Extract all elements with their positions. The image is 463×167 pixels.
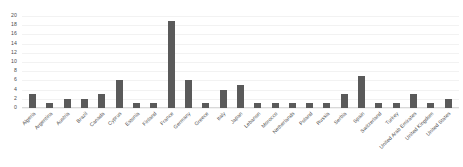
x-axis-tick-label: Italy bbox=[216, 111, 227, 122]
bar-slot bbox=[266, 16, 283, 108]
y-axis-tick-label: 8 bbox=[14, 69, 17, 74]
bar[interactable] bbox=[237, 85, 244, 108]
y-axis-tick-label: 14 bbox=[11, 41, 17, 46]
bar-slot bbox=[76, 16, 93, 108]
x-label-slot: Poland bbox=[301, 109, 318, 167]
bar-chart: 20181614121086420 AlgeriaArgentinaAustri… bbox=[0, 0, 463, 167]
bar-slot bbox=[336, 16, 353, 108]
x-label-slot: Russia bbox=[318, 109, 335, 167]
x-axis-tick-label: Spain bbox=[352, 111, 365, 124]
x-label-slot: Greece bbox=[197, 109, 214, 167]
bar[interactable] bbox=[81, 99, 88, 108]
y-axis-tick-label: 10 bbox=[11, 59, 17, 64]
x-label-slot: Argentina bbox=[41, 109, 58, 167]
x-label-slot: United Kingdom bbox=[422, 109, 439, 167]
bar[interactable] bbox=[254, 103, 261, 108]
bar[interactable] bbox=[168, 21, 175, 108]
bar-slot bbox=[197, 16, 214, 108]
x-label-slot: Lebanon bbox=[249, 109, 266, 167]
bar[interactable] bbox=[64, 99, 71, 108]
y-axis-tick-label: 20 bbox=[11, 13, 17, 18]
bar[interactable] bbox=[150, 103, 157, 108]
bar-slot bbox=[422, 16, 439, 108]
bar-slot bbox=[163, 16, 180, 108]
y-axis-tick-label: 4 bbox=[14, 87, 17, 92]
y-axis-tick-label: 16 bbox=[11, 32, 17, 37]
x-label-slot: Algeria bbox=[24, 109, 41, 167]
y-axis-tick-label: 2 bbox=[14, 96, 17, 101]
bar-slot bbox=[41, 16, 58, 108]
x-axis-labels: AlgeriaArgentinaAustriaBrazilCanadaCypru… bbox=[22, 109, 459, 167]
bar[interactable] bbox=[46, 103, 53, 108]
x-label-slot: Cyprus bbox=[111, 109, 128, 167]
x-label-slot: Germany bbox=[180, 109, 197, 167]
bar-slot bbox=[405, 16, 422, 108]
bar-slot bbox=[318, 16, 335, 108]
bar[interactable] bbox=[98, 94, 105, 108]
y-axis: 20181614121086420 bbox=[0, 16, 20, 108]
bar-slot bbox=[59, 16, 76, 108]
bar-slot bbox=[24, 16, 41, 108]
bar[interactable] bbox=[306, 103, 313, 108]
x-label-slot: Italy bbox=[214, 109, 231, 167]
y-axis-tick-label: 12 bbox=[11, 50, 17, 55]
bar[interactable] bbox=[133, 103, 140, 108]
bar-slot bbox=[214, 16, 231, 108]
bar-slot bbox=[145, 16, 162, 108]
x-label-slot: Netherlands bbox=[284, 109, 301, 167]
bar[interactable] bbox=[323, 103, 330, 108]
bar[interactable] bbox=[358, 76, 365, 108]
bar[interactable] bbox=[341, 94, 348, 108]
x-axis-tick-label: Russia bbox=[316, 111, 331, 126]
bar[interactable] bbox=[410, 94, 417, 108]
y-axis-tick-label: 18 bbox=[11, 23, 17, 28]
x-axis-tick-label: Austria bbox=[56, 111, 71, 126]
bar[interactable] bbox=[116, 80, 123, 108]
bar[interactable] bbox=[29, 94, 36, 108]
x-label-slot: Brazil bbox=[76, 109, 93, 167]
x-label-slot: United States bbox=[440, 109, 457, 167]
x-label-slot: Estonia bbox=[128, 109, 145, 167]
bar-slot bbox=[388, 16, 405, 108]
x-label-slot: Serbia bbox=[336, 109, 353, 167]
bar[interactable] bbox=[289, 103, 296, 108]
bar[interactable] bbox=[220, 90, 227, 108]
x-label-slot: Spain bbox=[353, 109, 370, 167]
bar[interactable] bbox=[445, 99, 452, 108]
bar-slot bbox=[353, 16, 370, 108]
x-label-slot: Canada bbox=[93, 109, 110, 167]
bar[interactable] bbox=[393, 103, 400, 108]
x-label-slot: France bbox=[163, 109, 180, 167]
bar[interactable] bbox=[185, 80, 192, 108]
bar-slot bbox=[370, 16, 387, 108]
bar-slot bbox=[232, 16, 249, 108]
bar-slot bbox=[180, 16, 197, 108]
bar-slot bbox=[128, 16, 145, 108]
bar[interactable] bbox=[202, 103, 209, 108]
x-axis-tick-label: Serbia bbox=[333, 111, 347, 125]
bar-slot bbox=[249, 16, 266, 108]
bar[interactable] bbox=[375, 103, 382, 108]
y-axis-tick-label: 0 bbox=[14, 105, 17, 110]
bar-slot bbox=[111, 16, 128, 108]
y-axis-tick-label: 6 bbox=[14, 78, 17, 83]
x-axis-tick-label: Japan bbox=[230, 111, 244, 125]
plot-area bbox=[22, 16, 459, 108]
x-label-slot: Morocco bbox=[266, 109, 283, 167]
x-axis-tick-label: Poland bbox=[298, 111, 313, 126]
x-axis-tick-label: Brazil bbox=[75, 111, 88, 124]
x-label-slot: Austria bbox=[59, 109, 76, 167]
x-axis-tick-label: Turkey bbox=[385, 111, 400, 126]
bar-slot bbox=[284, 16, 301, 108]
bar-slot bbox=[301, 16, 318, 108]
bar-series bbox=[22, 16, 459, 108]
x-label-slot: Japan bbox=[232, 109, 249, 167]
bar-slot bbox=[93, 16, 110, 108]
x-axis-tick-label: Cyprus bbox=[107, 111, 123, 127]
bar-slot bbox=[440, 16, 457, 108]
bar[interactable] bbox=[427, 103, 434, 108]
x-label-slot: Finland bbox=[145, 109, 162, 167]
bar[interactable] bbox=[272, 103, 279, 108]
